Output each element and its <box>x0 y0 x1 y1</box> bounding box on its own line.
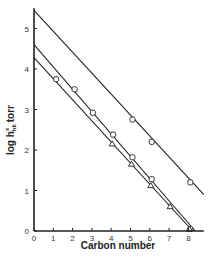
x-tick-label: 7 <box>167 234 172 243</box>
series-line <box>34 45 195 231</box>
x-tick-label: 2 <box>70 234 75 243</box>
series-1 <box>34 45 195 232</box>
y-tick-label: 3 <box>25 106 30 115</box>
square-marker <box>188 180 193 185</box>
x-axis-title: Carbon number <box>81 240 156 251</box>
series-0 <box>34 10 204 194</box>
y-axis-title: log hhcx, torr <box>4 105 17 155</box>
x-tick-label: 0 <box>32 234 37 243</box>
y-tick-label: 5 <box>25 25 30 34</box>
y-tick-label: 0 <box>25 227 30 236</box>
y-tick-label: 1 <box>25 187 30 196</box>
plot-area <box>34 10 204 231</box>
triangle-marker <box>109 141 115 146</box>
y-axis: 012345 <box>25 8 37 236</box>
series-2 <box>34 58 193 231</box>
square-marker <box>72 87 77 92</box>
y-axis-title-units: , torr <box>5 105 16 128</box>
chart: 012345678 012345 Carbon number log hhcx,… <box>0 0 213 265</box>
square-marker <box>111 132 116 137</box>
square-marker <box>149 177 154 182</box>
square-marker <box>90 110 95 115</box>
square-marker <box>130 155 135 160</box>
square-marker <box>149 139 154 144</box>
y-tick-label: 4 <box>25 65 30 74</box>
square-marker <box>54 77 59 82</box>
square-marker <box>130 117 135 122</box>
y-axis-title-main: log h <box>5 131 16 155</box>
x-tick-label: 8 <box>186 234 191 243</box>
x-tick-label: 1 <box>51 234 56 243</box>
y-tick-label: 2 <box>25 146 30 155</box>
svg-text:log hhcx, torr: log hhcx, torr <box>4 105 17 155</box>
series-line <box>34 10 204 194</box>
